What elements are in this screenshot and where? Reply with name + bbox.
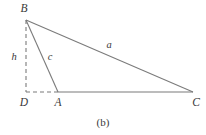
- vertex-label-A: A: [54, 97, 61, 109]
- side-label-a: a: [106, 40, 111, 51]
- vertex-label-B: B: [20, 3, 27, 15]
- side-label-h: h: [11, 52, 16, 63]
- vertex-label-C: C: [192, 97, 200, 109]
- figure-caption: (b): [97, 117, 110, 128]
- vertex-label-D: D: [20, 97, 28, 109]
- side-label-c: c: [48, 52, 53, 63]
